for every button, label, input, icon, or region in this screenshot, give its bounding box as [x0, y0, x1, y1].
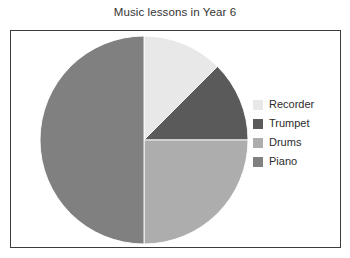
pie-slice-piano[interactable]: [40, 36, 144, 244]
legend-label: Piano: [269, 155, 297, 168]
legend-label: Trumpet: [269, 117, 310, 130]
legend-item-piano[interactable]: Piano: [253, 152, 339, 171]
legend-swatch-trumpet: [253, 119, 263, 129]
legend-item-drums[interactable]: Drums: [253, 133, 339, 152]
legend-item-trumpet[interactable]: Trumpet: [253, 114, 339, 133]
legend-item-recorder[interactable]: Recorder: [253, 95, 339, 114]
chart-title: Music lessons in Year 6: [0, 5, 350, 20]
legend-label: Drums: [269, 136, 301, 149]
legend-label: Recorder: [269, 98, 314, 111]
pie-slice-group: [40, 36, 248, 244]
chart-plot-area: RecorderTrumpetDrumsPiano: [10, 30, 341, 248]
chart-legend: RecorderTrumpetDrumsPiano: [253, 95, 339, 171]
legend-swatch-piano: [253, 157, 263, 167]
pie-chart-svg: [39, 35, 249, 245]
pie-slice-drums[interactable]: [144, 140, 248, 244]
legend-swatch-recorder: [253, 100, 263, 110]
legend-swatch-drums: [253, 138, 263, 148]
